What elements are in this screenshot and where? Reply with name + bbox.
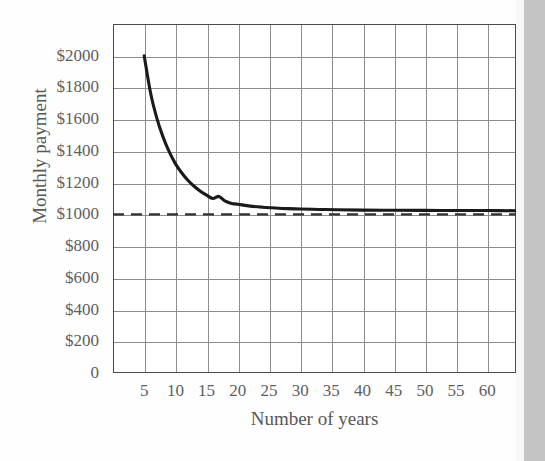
x-axis-title: Number of years <box>113 408 516 430</box>
y-tick-400: $400 <box>0 301 106 318</box>
y-tick-1000: $1000 <box>0 205 106 222</box>
x-tick-60: 60 <box>467 382 507 399</box>
payment-curve <box>144 56 516 211</box>
y-tick-1600: $1600 <box>0 110 106 127</box>
scan-page-edge-strip <box>524 0 545 461</box>
y-tick-800: $800 <box>0 237 106 254</box>
y-tick-200: $200 <box>0 332 106 349</box>
y-tick-1800: $1800 <box>0 78 106 95</box>
y-tick-1200: $1200 <box>0 174 106 191</box>
y-tick-1400: $1400 <box>0 142 106 159</box>
curve-layer <box>113 24 516 373</box>
y-tick-2000: $2000 <box>0 47 106 64</box>
y-tick-0: 0 <box>0 364 106 381</box>
figure-root: 0$200$400$600$800$1000$1200$1400$1600$18… <box>0 0 545 461</box>
y-tick-600: $600 <box>0 269 106 286</box>
scan-page-gap <box>516 0 524 461</box>
y-axis-title: Monthly payment <box>29 46 51 266</box>
